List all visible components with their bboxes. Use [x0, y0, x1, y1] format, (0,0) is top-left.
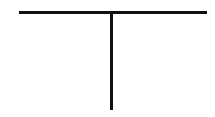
drawing-canvas: [0, 0, 215, 117]
t-shape-figure: [0, 0, 215, 117]
canvas-background: [0, 0, 215, 117]
